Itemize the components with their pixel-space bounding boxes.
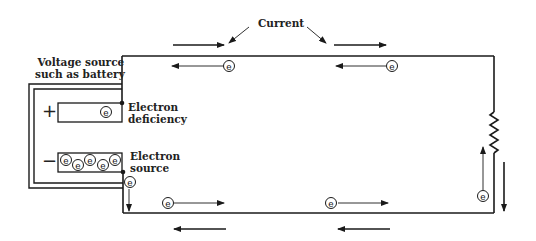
svg-text:e: e [103, 108, 108, 118]
electron-source-label: Electron source [130, 150, 180, 174]
electron-deficiency-label: Electron deficiency [128, 101, 187, 125]
svg-text:e: e [127, 178, 132, 188]
svg-text:e: e [165, 199, 170, 209]
svg-text:e: e [75, 161, 80, 171]
electron-label: e [226, 62, 231, 72]
positive-plate [58, 103, 122, 122]
electron-source-line2: source [130, 162, 180, 174]
electron-deficiency-line1: Electron [128, 101, 187, 113]
electron-source-line1: Electron [130, 150, 180, 162]
svg-text:e: e [112, 156, 117, 166]
svg-text:e: e [87, 156, 92, 166]
svg-text:e: e [63, 156, 68, 166]
svg-text:e: e [480, 192, 485, 202]
svg-text:e: e [100, 161, 105, 171]
plus-sign: + [42, 100, 57, 121]
electrons [61, 61, 489, 209]
voltage-source-line1: Voltage source [35, 56, 125, 68]
voltage-source-label: Voltage source such as battery [35, 56, 125, 80]
resistor [490, 112, 498, 153]
current-label: Current [258, 17, 304, 29]
electron-deficiency-line2: deficiency [128, 113, 187, 125]
circuit-diagram: e e e e e e e e e e e e [0, 0, 536, 241]
svg-text:e: e [328, 199, 333, 209]
minus-sign: − [42, 150, 57, 171]
svg-text:e: e [389, 62, 394, 72]
voltage-source-line2: such as battery [35, 68, 125, 80]
